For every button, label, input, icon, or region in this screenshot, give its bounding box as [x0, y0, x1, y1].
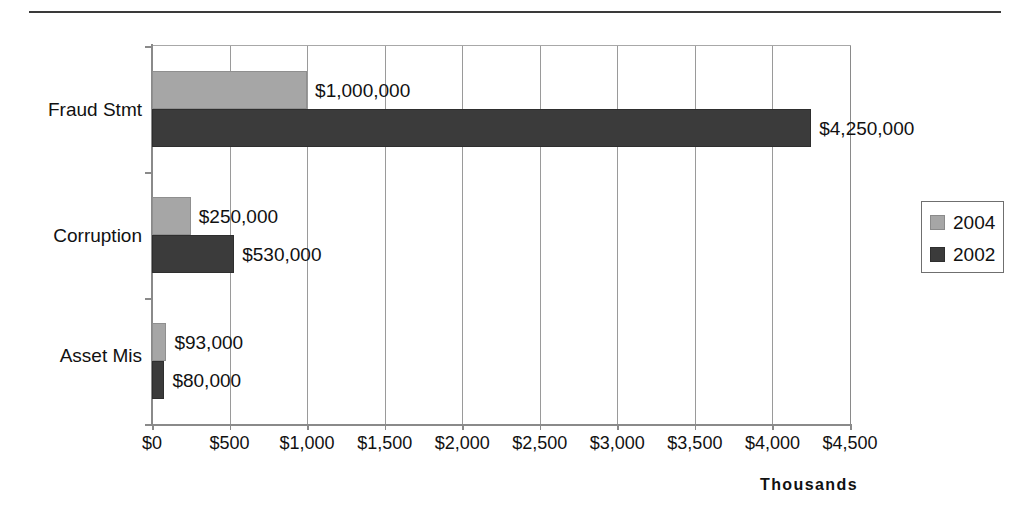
gridline — [695, 46, 696, 424]
bar-fraud-stmt-2004 — [152, 71, 307, 109]
chart-figure: $0$500$1,000$1,500$2,000$2,500$3,000$3,5… — [0, 0, 1029, 519]
category-label: Fraud Stmt — [2, 99, 142, 121]
legend-item[interactable]: 2002 — [930, 243, 995, 265]
x-axis-title: Thousands — [760, 476, 858, 494]
header-rule — [29, 11, 1001, 13]
bar-value-label: $4,250,000 — [819, 119, 914, 138]
x-axis-tick — [695, 424, 697, 430]
bar-corruption-2004 — [152, 197, 191, 235]
x-axis-tick-label: $500 — [210, 433, 250, 454]
gridline — [617, 46, 618, 424]
x-axis-tick — [617, 424, 619, 430]
legend-item[interactable]: 2004 — [930, 211, 995, 233]
y-axis-tick — [145, 172, 152, 174]
legend-swatch-icon — [930, 247, 945, 262]
x-axis-tick — [850, 424, 852, 430]
x-axis-tick — [462, 424, 464, 430]
y-axis-tick — [145, 298, 152, 300]
bar-value-label: $1,000,000 — [315, 81, 410, 100]
x-axis-tick-label: $2,000 — [435, 433, 490, 454]
legend-label: 2004 — [953, 213, 995, 232]
x-axis-tick — [385, 424, 387, 430]
legend-swatch-icon — [930, 215, 945, 230]
bar-value-label: $80,000 — [172, 371, 241, 390]
x-axis-tick-label: $4,500 — [822, 433, 877, 454]
x-axis-tick-label: $4,000 — [745, 433, 800, 454]
x-axis-line — [151, 424, 851, 426]
x-axis-tick-label: $3,500 — [667, 433, 722, 454]
y-axis-tick — [145, 46, 152, 48]
bar-value-label: $250,000 — [199, 207, 278, 226]
gridline — [307, 46, 308, 424]
x-axis-tick — [307, 424, 309, 430]
bar-asset-mis-2002 — [152, 361, 164, 399]
category-label: Corruption — [2, 225, 142, 247]
x-axis-tick-label: $1,500 — [357, 433, 412, 454]
gridline — [540, 46, 541, 424]
bar-asset-mis-2004 — [152, 323, 166, 361]
gridline — [772, 46, 773, 424]
gridline — [850, 46, 851, 424]
x-axis-tick-label: $0 — [142, 433, 162, 454]
legend-label: 2002 — [953, 245, 995, 264]
gridline — [462, 46, 463, 424]
x-axis-tick — [540, 424, 542, 430]
bar-fraud-stmt-2002 — [152, 109, 811, 147]
x-axis-tick — [230, 424, 232, 430]
x-axis-tick-label: $3,000 — [590, 433, 645, 454]
bar-value-label: $93,000 — [174, 333, 243, 352]
legend: 2004 2002 — [921, 201, 1004, 273]
bar-corruption-2002 — [152, 235, 234, 273]
chart-title-clipped — [0, 0, 1029, 8]
gridline — [385, 46, 386, 424]
bar-value-label: $530,000 — [242, 245, 321, 264]
category-label: Asset Mis — [2, 345, 142, 367]
y-axis-tick — [145, 424, 152, 426]
x-axis-tick — [772, 424, 774, 430]
x-axis-tick-label: $1,000 — [280, 433, 335, 454]
x-axis-tick — [152, 424, 154, 430]
plot-top-border — [151, 45, 851, 46]
x-axis-tick-label: $2,500 — [512, 433, 567, 454]
